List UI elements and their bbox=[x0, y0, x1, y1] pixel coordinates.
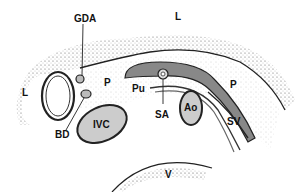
diagram-drawing bbox=[0, 0, 305, 192]
anatomy-diagram: L L GDA P Pu P BD IVC SA Ao SV V bbox=[0, 0, 305, 192]
bile-duct bbox=[81, 90, 91, 98]
label-pancreas-right: P bbox=[230, 80, 237, 90]
label-ivc: IVC bbox=[93, 120, 110, 130]
label-sa: SA bbox=[155, 110, 169, 120]
label-pancreas-left: P bbox=[104, 78, 111, 88]
gda-vessel bbox=[76, 75, 84, 83]
label-ao: Ao bbox=[184, 103, 197, 113]
label-sv: SV bbox=[227, 117, 240, 127]
label-pu: Pu bbox=[132, 84, 145, 94]
label-bd: BD bbox=[55, 130, 69, 140]
label-liver-left: L bbox=[22, 88, 28, 98]
label-vertebra: V bbox=[165, 170, 172, 180]
label-liver-top: L bbox=[175, 12, 181, 22]
label-gda: GDA bbox=[74, 14, 96, 24]
